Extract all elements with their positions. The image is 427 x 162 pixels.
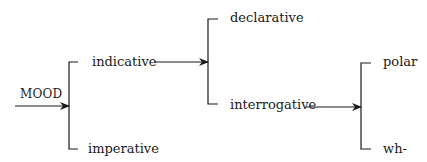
indicative-bracket xyxy=(208,19,218,104)
interrogative-bracket xyxy=(361,63,371,149)
polar-label: polar xyxy=(383,55,417,68)
indicative-label: indicative xyxy=(92,55,156,68)
mood-label: MOOD xyxy=(20,88,62,100)
network-lines xyxy=(0,0,427,162)
imperative-label: imperative xyxy=(88,142,159,155)
mood-system-network: MOOD indicative imperative declarative i… xyxy=(0,0,427,162)
interrogative-label: interrogative xyxy=(230,98,316,111)
wh-label: wh- xyxy=(383,142,407,155)
declarative-label: declarative xyxy=(230,11,304,24)
mood-bracket xyxy=(69,62,78,149)
